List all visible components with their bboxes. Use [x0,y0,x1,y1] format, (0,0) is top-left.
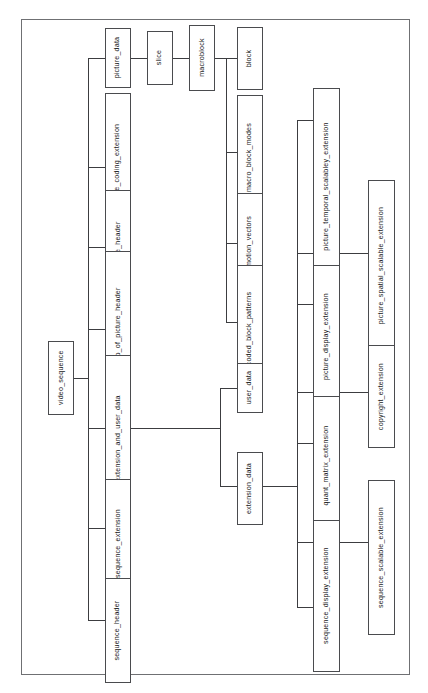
edge-extension-and-user-data-bus [220,388,221,486]
node-label: sequence_scalable_extension [378,507,385,608]
edge-extension-data-bus [297,120,298,607]
node-picture-spatial-scalable-extension[interactable]: picture_spatial_scalable_extension [368,180,395,352]
node-label: picture_temporal_scalabley_extension [323,122,330,250]
edge-to-extension-and-user-data [88,428,105,429]
edge-macroblock-bus [226,58,227,323]
node-quant-matrix-extension[interactable]: quant_matrix_extension [313,396,340,536]
edge-to-picture-coding-extension [88,167,105,168]
node-label: block [246,50,253,68]
node-picture-temporal-scalabley-extension[interactable]: picture_temporal_scalabley_extension [313,88,340,285]
syntax-tree-diagram: video_sequence picture_data picture_codi… [0,0,428,693]
node-sequence-scalable-extension[interactable]: sequence_scalable_extension [368,480,395,635]
node-sequence-header[interactable]: sequence_header [105,578,131,683]
node-slice[interactable]: slice [147,31,173,85]
edge-to-macro-block-modes [226,152,237,153]
edge-level1-bus [88,58,89,620]
node-label: picture_spatial_scalable_extension [378,207,385,324]
edge-to-user-data [220,388,237,389]
edge-to-sequence-header [88,620,105,621]
node-label: sequence_display_extension [323,548,330,645]
edge-to-sequence-extension [88,528,105,529]
edge-to-picture-display-extension [297,304,313,305]
node-copyright-extension[interactable]: copyright_extension [368,345,395,448]
edge-to-motion-vectors [226,243,237,244]
node-label: slice [156,50,163,65]
node-user-data[interactable]: user_data [237,363,263,413]
node-label: picture_data [114,37,121,79]
node-extension-data[interactable]: extension_data [237,452,263,525]
node-label: user_data [246,371,253,404]
edge-to-sequence-display-extension [297,607,313,608]
node-label: extension_data [246,463,253,514]
node-label: sequence_header [114,601,121,661]
node-macroblock[interactable]: macroblock [189,25,215,91]
edge-to-group-of-picture-header [88,329,105,330]
node-label: quant_matrix_extension [323,426,330,506]
node-picture-data[interactable]: picture_data [105,28,131,88]
diagram-page: video_sequence picture_data picture_codi… [0,0,428,693]
node-label: macro_block_modes [246,123,253,192]
node-label: copyright_extension [378,363,385,430]
edge-to-picture-temporal-scalabley-extension [297,120,313,121]
edge-to-picture-data [88,58,105,59]
node-video-sequence[interactable]: video_sequence [48,341,74,415]
edge-to-quant-matrix-extension [297,443,313,444]
edge-to-extension-data [220,486,237,487]
edge-to-coded-block-patterns [226,322,237,323]
node-sequence-display-extension[interactable]: sequence_display_extension [313,520,340,672]
node-label: extension_and_user_data [114,395,121,482]
edge-picture-data-to-slice [131,58,147,59]
edge-to-block [226,58,237,59]
edge-extension-data-stub [263,486,298,487]
node-label: motion_vectors [246,216,253,267]
node-label: sequence_extension [114,510,121,579]
node-label: video_sequence [57,351,64,406]
edge-slice-to-macroblock [173,58,189,59]
node-label: coded_block_patterns [246,292,253,366]
node-label: macroblock [198,39,205,77]
node-block[interactable]: block [237,27,263,90]
node-picture-display-extension[interactable]: picture_display_extension [313,265,340,408]
edge-to-picture-header [88,247,105,248]
edge-root-stub [74,378,89,379]
edge-extension-and-user-data-stub [131,428,221,429]
node-label: picture_display_extension [323,293,330,380]
